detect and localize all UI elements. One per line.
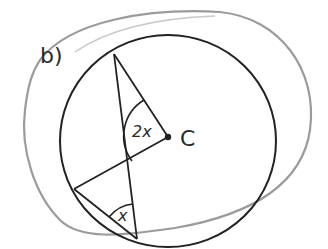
angle-label-2x: 2x [132,122,152,141]
center-label: C [180,126,195,151]
part-label: b) [40,43,63,68]
circle-theorem-diagram: b) C 2x x [0,0,328,249]
center-point [165,134,171,140]
angle-label-x: x [117,206,128,225]
highlight-loop-inner [75,16,215,52]
line-center-to-left [74,137,168,189]
main-circle [60,35,276,247]
highlight-loop [24,11,311,234]
